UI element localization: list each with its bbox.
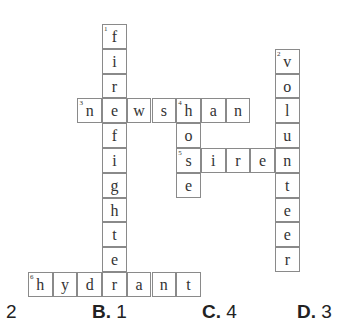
option-letter: B. [92,301,111,322]
option-letter: D. [297,301,316,322]
cell-letter: e [111,251,118,268]
crossword-cell[interactable]: o [176,123,201,148]
clue-number: 4 [178,99,182,107]
crossword-cell[interactable]: t [275,173,300,198]
crossword-cell[interactable]: l [275,98,300,123]
cell-letter: i [112,152,116,169]
crossword-cell[interactable]: t [176,272,201,297]
crossword-cell[interactable]: t [102,222,127,247]
crossword-cell[interactable]: o [275,74,300,99]
cell-letter: i [211,152,215,169]
crossword-cell[interactable]: g [102,173,127,198]
cell-letter: r [235,152,240,169]
crossword-cell[interactable]: e [102,98,127,123]
cell-letter: t [186,276,190,293]
crossword-cell[interactable]: h [102,198,127,223]
option-value: 2 [6,301,17,322]
crossword-cell[interactable]: i [201,148,226,173]
option-value: 1 [116,301,127,322]
answer-option-d[interactable]: D. 3 [297,301,332,323]
cell-letter: g [110,177,118,194]
crossword-cell[interactable]: r [102,74,127,99]
option-letter: C. [202,301,221,322]
crossword-cell[interactable]: r [226,148,251,173]
crossword-cell[interactable]: e [176,173,201,198]
cell-letter: i [112,53,116,70]
cell-letter: h [110,202,118,219]
cell-letter: e [284,202,291,219]
cell-letter: n [234,102,242,119]
cell-letter: t [285,177,289,194]
crossword-cell[interactable]: 2v [275,49,300,74]
crossword-cell[interactable]: y [53,272,78,297]
clue-number: 2 [277,50,281,58]
crossword-cell[interactable]: e [250,148,275,173]
crossword-cell[interactable]: d [77,272,102,297]
option-value: 4 [226,301,237,322]
cell-letter: h [36,276,44,293]
crossword-cell[interactable]: r [102,272,127,297]
clue-number: 6 [30,273,34,281]
option-value: 3 [321,301,332,322]
crossword-cell[interactable]: n [226,98,251,123]
cell-letter: s [161,102,167,119]
cell-letter: n [283,152,291,169]
cell-letter: f [112,127,117,144]
crossword-cell[interactable]: i [102,148,127,173]
cell-letter: e [185,177,192,194]
crossword-cell[interactable]: e [275,198,300,223]
cell-letter: r [285,251,290,268]
crossword-grid: 1firefighter2volunteer3nws4hano5seire6hy… [0,0,339,300]
crossword-cell[interactable]: r [275,247,300,272]
cell-letter: s [185,152,191,169]
clue-number: 1 [104,25,108,33]
cell-letter: n [160,276,168,293]
crossword-cell[interactable]: s [152,98,177,123]
answer-option-b[interactable]: B. 1 [92,301,127,323]
cell-letter: a [210,102,217,119]
cell-letter: w [133,102,145,119]
crossword-cell[interactable]: a [127,272,152,297]
clue-number: 3 [79,99,83,107]
crossword-cell[interactable]: n [152,272,177,297]
crossword-cell[interactable]: i [102,49,127,74]
cell-letter: e [259,152,266,169]
crossword-cell[interactable]: 5s [176,148,201,173]
crossword-cell[interactable]: n [275,148,300,173]
cell-letter: d [86,276,94,293]
answer-options: 2 B. 1 C. 4 D. 3 [0,300,339,324]
answer-option-c[interactable]: C. 4 [202,301,237,323]
cell-letter: h [185,102,193,119]
cell-letter: y [61,276,69,293]
crossword-cell[interactable]: e [275,222,300,247]
crossword-cell[interactable]: f [102,123,127,148]
cell-letter: a [136,276,143,293]
cell-letter: v [283,53,291,70]
clue-number: 5 [178,149,182,157]
crossword-cell[interactable]: e [102,247,127,272]
crossword-cell[interactable]: 3n [77,98,102,123]
cell-letter: l [285,102,289,119]
crossword-cell[interactable]: w [127,98,152,123]
cell-letter: u [283,127,291,144]
cell-letter: t [112,226,116,243]
crossword-cell[interactable]: 4h [176,98,201,123]
cell-letter: n [86,102,94,119]
cell-letter: e [284,226,291,243]
cell-letter: f [112,28,117,45]
answer-option-a[interactable]: 2 [6,301,17,323]
crossword-cell[interactable]: u [275,123,300,148]
cell-letter: r [112,276,117,293]
crossword-cell[interactable]: 6h [28,272,53,297]
cell-letter: o [283,78,291,95]
cell-letter: r [112,78,117,95]
crossword-cell[interactable]: a [201,98,226,123]
cell-letter: o [185,127,193,144]
crossword-cell[interactable]: 1f [102,24,127,49]
cell-letter: e [111,102,118,119]
